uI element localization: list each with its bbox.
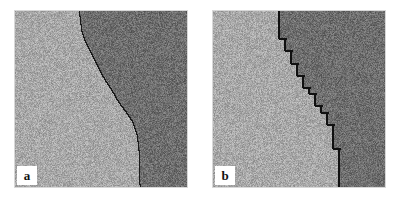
panel-b-label: b xyxy=(221,169,228,182)
panel-b-label-box: b xyxy=(215,166,235,185)
phase-field-b xyxy=(213,11,385,187)
panel-b: b xyxy=(212,10,386,188)
panel-a-label: a xyxy=(24,169,31,182)
panel-a-image xyxy=(15,11,187,187)
figure-container: a b xyxy=(0,0,397,200)
panel-a: a xyxy=(14,10,188,188)
phase-field-a xyxy=(15,11,187,187)
panel-a-label-box: a xyxy=(17,166,37,185)
panel-b-image xyxy=(213,11,385,187)
